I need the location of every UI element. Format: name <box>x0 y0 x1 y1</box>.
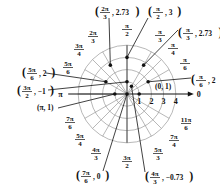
fraction-numerator: 5π <box>154 146 162 154</box>
fraction-numerator: 4π <box>151 170 159 178</box>
callout-p_7pi6: (7π6, 0) <box>76 168 109 185</box>
axis-end-label: 0 <box>197 90 201 99</box>
paren-right: ) <box>219 25 221 39</box>
fraction-denominator: 3 <box>91 37 95 45</box>
angle-label-2pi_over_3: 2π3 <box>88 29 98 45</box>
angle-label-5pi_over_6: 5π6 <box>63 60 73 76</box>
fraction-numerator: 3π <box>123 154 131 162</box>
axis-tick-label: 3 <box>162 97 166 106</box>
fraction-denominator: 6 <box>30 74 34 82</box>
angle-label-7pi_over_4: 7π4 <box>169 133 179 149</box>
plotted-point <box>146 80 150 84</box>
callout-value: , −1 <box>34 87 46 96</box>
callout-value: , 2.73 <box>112 8 129 17</box>
callout-p_3pi2: (3π2, −1) <box>17 83 54 100</box>
callout-value: , 2 <box>208 76 216 85</box>
leader-line <box>127 18 148 57</box>
fraction-denominator: 3 <box>153 178 157 186</box>
angle-label-4pi_over_3: 4π3 <box>91 146 101 162</box>
callout-p_pi3: (π3, 2.73) <box>178 25 220 42</box>
plotted-point <box>125 56 129 60</box>
fraction-denominator: 2 <box>156 13 160 21</box>
fraction-numerator: 4π <box>92 146 100 154</box>
fraction-denominator: 3 <box>94 154 98 162</box>
paren-left: ( <box>178 25 182 39</box>
leader-line <box>109 18 110 65</box>
fraction-denominator: 6 <box>84 177 88 185</box>
fraction-numerator: 3π <box>75 42 83 50</box>
fraction-denominator: 2 <box>125 162 129 170</box>
plotted-point <box>137 92 141 96</box>
callout-p_4pi3: (4π3, −0.73) <box>145 169 193 186</box>
fraction-denominator: 3 <box>103 13 107 21</box>
fraction-numerator: 3π <box>23 84 31 92</box>
fraction-denominator: 3 <box>158 36 162 44</box>
fraction-denominator: 2 <box>125 30 129 38</box>
arrowhead-icon <box>188 92 194 97</box>
angle-label-pi_over_6: π6 <box>180 56 190 72</box>
fraction-numerator: π <box>125 22 129 30</box>
fraction-denominator: 6 <box>183 64 187 72</box>
angle-label-5pi_over_3: 5π3 <box>153 146 163 162</box>
plotted-point <box>104 80 108 84</box>
paren-left: ( <box>191 72 195 86</box>
fraction-numerator: π <box>183 56 187 64</box>
angle-label-7pi_over_6: 7π6 <box>65 115 75 131</box>
callout-value: , 3 <box>165 8 173 17</box>
callout-value: , −0.73 <box>162 173 183 182</box>
fraction-numerator: π <box>186 26 190 34</box>
fraction-numerator: π <box>156 5 160 13</box>
leader-line <box>48 82 127 90</box>
fraction-denominator: 3 <box>156 154 160 162</box>
callout-value: , 2.73 <box>195 29 212 38</box>
callout-value: , 2 <box>39 69 47 78</box>
fraction-numerator: π <box>171 41 175 49</box>
fraction-denominator: 4 <box>172 141 176 149</box>
axis-tick-label: 2 <box>149 97 153 106</box>
paren-right: ) <box>177 4 181 18</box>
callout-p_2pi3: (2π3, 2.73) <box>95 4 140 21</box>
fraction-denominator: 4 <box>77 50 81 58</box>
plotted-point <box>125 92 129 96</box>
fraction-numerator: π <box>158 28 162 36</box>
angle-label-3pi_over_4: 3π4 <box>74 42 84 58</box>
fraction-numerator: 7π <box>66 115 74 123</box>
pi-axis-label: π <box>58 90 63 99</box>
fraction-denominator: 4 <box>171 49 175 57</box>
polar-coordinate-diagram: 01234π π22π33π45π6π3π4π67π65π44π33π25π37… <box>0 0 220 190</box>
paren-right: ) <box>136 4 140 18</box>
paren-left: ( <box>17 83 21 97</box>
callout-leaders <box>46 18 191 172</box>
paren-left: ( <box>76 168 80 182</box>
paren-left: ( <box>145 169 149 183</box>
fraction-denominator: 4 <box>78 140 82 148</box>
fraction-denominator: 2 <box>25 92 29 100</box>
callout-label: (π, 1) <box>37 103 54 112</box>
callout-label: (0, 1) <box>155 82 172 91</box>
fraction-denominator: 6 <box>68 123 72 131</box>
fraction-numerator: 5π <box>28 66 36 74</box>
axis-tick-label: 1 <box>137 97 141 106</box>
callout-p_pi2: (π2, 3) <box>148 4 181 21</box>
paren-left: ( <box>22 65 26 79</box>
fraction-denominator: 6 <box>199 81 203 89</box>
fraction-denominator: 6 <box>184 124 188 132</box>
angle-label-pi_over_4: π4 <box>168 41 178 57</box>
fraction-numerator: π <box>199 73 203 81</box>
axis-tick-label: 4 <box>174 97 178 106</box>
paren-right: ) <box>105 168 109 182</box>
plotted-point <box>130 84 134 88</box>
fraction-numerator: 2π <box>89 29 97 37</box>
fraction-numerator: 5π <box>76 132 84 140</box>
callout-p_pi6: (π6, 2) <box>191 72 220 89</box>
fraction-numerator: 7π <box>170 133 178 141</box>
paren-left: ( <box>95 4 99 18</box>
angle-label-3pi_over_2: 3π2 <box>122 154 132 170</box>
fraction-numerator: 5π <box>64 60 72 68</box>
plotted-point <box>142 63 146 67</box>
paren-left: ( <box>148 4 152 18</box>
angle-label-pi_over_2: π2 <box>122 22 132 38</box>
angle-label-pi_over_3: π3 <box>155 28 165 44</box>
angle-label-11pi_over_6: 11π6 <box>181 116 192 132</box>
callout-p_01: (0, 1) <box>155 82 172 91</box>
